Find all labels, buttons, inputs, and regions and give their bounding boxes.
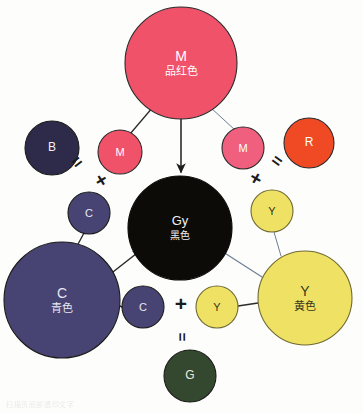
node-circle-M-right[interactable]	[222, 127, 264, 169]
operator-equals-5: =	[175, 333, 190, 342]
node-circle-B[interactable]	[25, 121, 79, 175]
node-circle-C-big[interactable]	[4, 242, 120, 358]
page-bleed-through: 扫描页底部透印文字	[0, 387, 363, 413]
node-circle-Y-big[interactable]	[258, 251, 352, 345]
node-circle-C-up[interactable]	[68, 192, 110, 234]
node-circle-Y-low[interactable]	[196, 286, 238, 328]
node-circle-C-low[interactable]	[122, 286, 164, 328]
node-circle-M-left[interactable]	[98, 130, 142, 174]
node-circle-Y-up[interactable]	[251, 190, 293, 232]
operator-plus-4: +	[175, 293, 187, 314]
edge-M-big-to-M-right	[210, 107, 235, 130]
diagram-svg	[0, 0, 363, 413]
edge-Y-big-to-Y-low	[238, 303, 258, 306]
bleed-text: 扫描页底部透印文字	[6, 399, 74, 409]
edge-M-big-to-M-left	[130, 107, 153, 134]
node-circle-Gy[interactable]	[128, 176, 232, 280]
node-circle-R[interactable]	[284, 118, 334, 168]
diagram-canvas: M品红色BMMRCYGy黑色C青色Y黄色CYG =++=+= 扫描页底部透印文字	[0, 0, 363, 413]
node-layer	[4, 7, 352, 402]
edge-Y-big-to-Y-up	[274, 232, 281, 256]
edge-Y-big-to-Gy	[220, 250, 262, 277]
node-circle-M-big[interactable]	[125, 7, 237, 119]
